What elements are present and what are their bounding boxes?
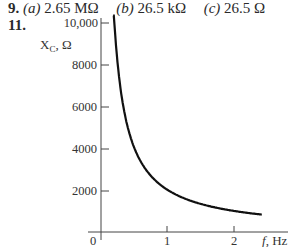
y-axis-label: XC, Ω [40, 37, 72, 54]
x-ticks [167, 226, 234, 232]
y-ticks [101, 23, 109, 191]
y-tick-6000: 6000 [72, 100, 97, 114]
y-tick-2000: 2000 [72, 184, 97, 198]
reactance-chart: 10,000 8000 6000 4000 2000 0 1 2 XC, Ω f… [0, 0, 288, 247]
y-tick-4000: 4000 [72, 142, 97, 156]
reactance-curve [113, 16, 262, 215]
x-tick-2: 2 [231, 234, 237, 247]
origin-label: 0 [90, 234, 96, 247]
y-tick-8000: 8000 [72, 58, 97, 72]
x-tick-1: 1 [164, 234, 170, 247]
x-axis-label: f, Hz [262, 233, 288, 247]
y-tick-10000: 10,000 [64, 16, 98, 30]
